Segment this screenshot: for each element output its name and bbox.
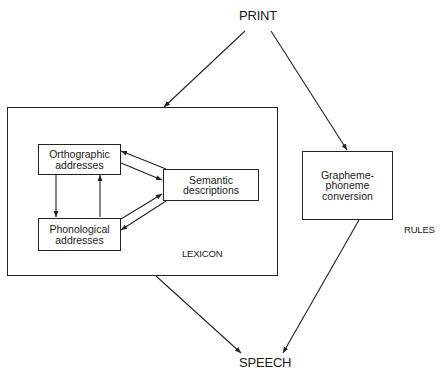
- print-label: PRINT: [239, 8, 277, 23]
- phonological-line2: addresses: [49, 235, 109, 246]
- grapheme-phoneme-conversion-node: Grapheme- phoneme conversion: [302, 151, 393, 220]
- lexicon-label: LEXICON: [182, 248, 222, 259]
- rules-label: RULES: [404, 224, 435, 235]
- semantic-descriptions-node: Semantic descriptions: [163, 169, 259, 201]
- orthographic-addresses-node: Orthographic addresses: [38, 144, 121, 175]
- gpc-line3: conversion: [321, 191, 374, 202]
- semantic-line2: descriptions: [183, 185, 239, 196]
- phonological-line1: Phonological: [49, 224, 109, 235]
- orthographic-line1: Orthographic: [49, 149, 110, 160]
- speech-label: SPEECH: [239, 355, 291, 370]
- phonological-addresses-node: Phonological addresses: [38, 218, 121, 251]
- orthographic-line2: addresses: [49, 160, 110, 171]
